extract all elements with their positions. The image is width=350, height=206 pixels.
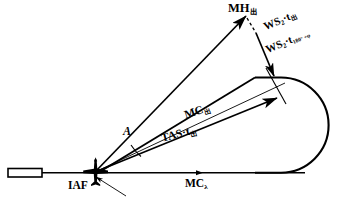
diagram-root: MH出 WS2·t出 WS2·t180° +φ MC出 TAS·t出 MCλ I… [0, 0, 350, 206]
label-iaf: IAF [68, 180, 88, 192]
runway-icon [8, 169, 42, 178]
label-mc-lambda-subscript: λ [204, 183, 208, 191]
label-mh-subscript: 出 [250, 7, 257, 16]
label-mc-lambda: MCλ [185, 178, 208, 191]
label-mc-lambda-base: MC [185, 177, 204, 189]
ws-t-out-dashed-segment [247, 18, 256, 33]
label-angle-a: A [123, 125, 131, 137]
label-mh-base: MH [228, 1, 250, 15]
label-mh-out: MH出 [228, 2, 257, 15]
mh-heading-vector [95, 16, 246, 172]
centreline-direction-arrowhead [196, 170, 203, 175]
iaf-leader-arrow [96, 177, 126, 196]
